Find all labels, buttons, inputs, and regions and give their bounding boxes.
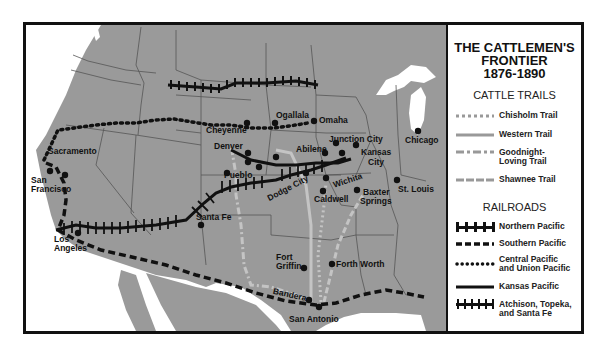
railroads-heading: RAILROADS — [448, 201, 581, 213]
legend-item-shawnee-trail: Shawnee Trail — [448, 170, 581, 189]
legend-label: Shawnee Trail — [499, 175, 556, 184]
city-chicago: Chicago — [405, 136, 439, 145]
city-san-francisco-line2: Francisco — [31, 185, 71, 194]
legend-item-chisholm-trail: Chisholm Trail — [448, 106, 581, 125]
legend-item-goodnight-loving-trail: Goodnight-Loving Trail — [448, 144, 581, 170]
atsf-swatch-icon — [454, 298, 496, 310]
legend-title-line3: 1876-1890 — [448, 67, 581, 80]
city-fort-worth: Forth Worth — [336, 260, 384, 269]
city-denver: Denver — [214, 142, 243, 151]
legend-label: Goodnight-Loving Trail — [499, 148, 569, 166]
legend-item-central-union-pacific: Central Pacific and Union Pacific — [448, 251, 581, 277]
shawnee-trail-swatch-icon — [454, 176, 496, 184]
legend-item-northern-pacific: Northern Pacific — [448, 217, 581, 236]
city-santa-fe: Santa Fe — [196, 213, 231, 222]
city-kansas-city-line2: City — [368, 158, 384, 167]
city-pueblo: Pueblo — [224, 171, 252, 180]
northern-pacific-swatch-icon — [454, 221, 496, 233]
city-st-louis: St. Louis — [398, 185, 434, 194]
city-baxter-springs-line2: Springs — [360, 197, 392, 206]
city-los-angeles-line2: Angeles — [54, 244, 87, 253]
goodnight-loving-trail-swatch-icon — [454, 148, 496, 156]
legend-label: Central Pacific and Union Pacific — [499, 255, 574, 273]
city-fort-griffin-line2: Griffin — [276, 262, 302, 271]
legend-item-western-trail: Western Trail — [448, 125, 581, 144]
central-union-pacific-swatch-icon — [454, 260, 496, 268]
city-cheyenne: Cheyenne — [206, 126, 247, 135]
legend-item-southern-pacific: Southern Pacific — [448, 236, 581, 251]
western-trail-swatch-icon — [454, 131, 496, 139]
city-abilene: Abilene — [296, 145, 327, 154]
chisholm-trail-swatch-icon — [454, 112, 496, 120]
legend-item-atsf: Atchison, Topeka, and Santa Fe — [448, 296, 581, 322]
city-junction-city: Junction City — [329, 135, 383, 144]
city-caldwell: Caldwell — [314, 195, 348, 204]
legend-label: Western Trail — [499, 130, 552, 139]
map-frame: Sacramento San Francisco Los Angeles Che… — [23, 22, 584, 334]
southern-pacific-swatch-icon — [454, 240, 496, 248]
city-sacramento: Sacramento — [48, 147, 97, 156]
legend-label: Atchison, Topeka, and Santa Fe — [499, 300, 574, 318]
legend-label: Southern Pacific — [499, 239, 566, 248]
city-kansas-city-line1: Kansas — [361, 148, 391, 157]
legend-label: Northern Pacific — [499, 222, 565, 231]
city-san-antonio: San Antonio — [289, 315, 339, 324]
legend-item-kansas-pacific: Kansas Pacific — [448, 277, 581, 296]
cattle-trails-heading: CATTLE TRAILS — [448, 89, 581, 101]
city-omaha: Omaha — [319, 116, 348, 125]
kansas-pacific-swatch-icon — [454, 283, 496, 291]
map-legend: THE CATTLEMEN'S FRONTIER 1876-1890 CATTL… — [446, 25, 581, 331]
legend-label: Chisholm Trail — [499, 111, 558, 120]
city-ogallala: Ogallala — [276, 111, 309, 120]
legend-label: Kansas Pacific — [499, 282, 559, 291]
map-area: Sacramento San Francisco Los Angeles Che… — [26, 25, 446, 331]
